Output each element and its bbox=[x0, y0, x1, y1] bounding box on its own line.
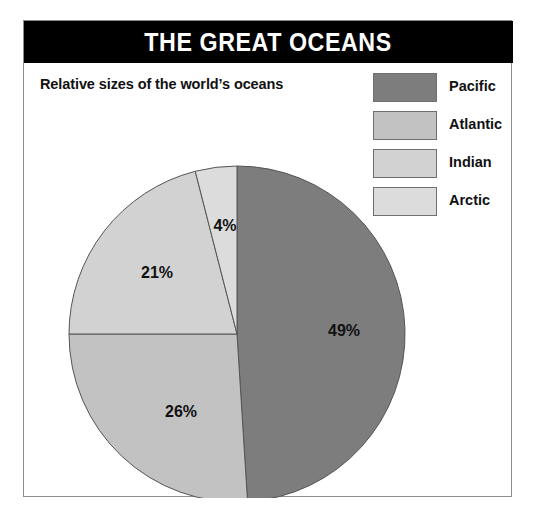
chart-legend: Pacific Atlantic Indian Arctic bbox=[373, 71, 508, 223]
legend-swatch-arctic bbox=[373, 187, 437, 216]
legend-label-atlantic: Atlantic bbox=[449, 116, 502, 132]
pie-slice-value-atlantic: 26% bbox=[165, 403, 197, 420]
title-bar: THE GREAT OCEANS bbox=[24, 21, 513, 63]
legend-item-pacific[interactable]: Pacific bbox=[373, 71, 508, 109]
pie-slice-indian[interactable] bbox=[69, 171, 237, 334]
pie-slice-arctic[interactable] bbox=[195, 166, 237, 334]
page-title: THE GREAT OCEANS bbox=[145, 28, 392, 57]
legend-label-arctic: Arctic bbox=[449, 192, 490, 208]
chart-subtitle: Relative sizes of the world’s oceans bbox=[40, 76, 283, 92]
pie-slices bbox=[69, 166, 405, 498]
pie-slice-value-pacific: 49% bbox=[328, 322, 360, 339]
legend-swatch-atlantic bbox=[373, 111, 437, 140]
legend-label-indian: Indian bbox=[449, 154, 492, 170]
legend-item-indian[interactable]: Indian bbox=[373, 147, 508, 185]
pie-slice-value-arctic: 4% bbox=[213, 217, 236, 234]
legend-item-atlantic[interactable]: Atlantic bbox=[373, 109, 508, 147]
legend-item-arctic[interactable]: Arctic bbox=[373, 185, 508, 223]
legend-swatch-pacific bbox=[373, 73, 437, 102]
pie-slice-value-indian: 21% bbox=[141, 264, 173, 281]
chart-panel: THE GREAT OCEANS Relative sizes of the w… bbox=[23, 20, 512, 497]
legend-swatch-indian bbox=[373, 149, 437, 178]
pie-slice-atlantic[interactable] bbox=[69, 334, 248, 498]
pie-slice-labels: 49%26%21%4% bbox=[141, 217, 360, 420]
legend-label-pacific: Pacific bbox=[449, 78, 496, 94]
